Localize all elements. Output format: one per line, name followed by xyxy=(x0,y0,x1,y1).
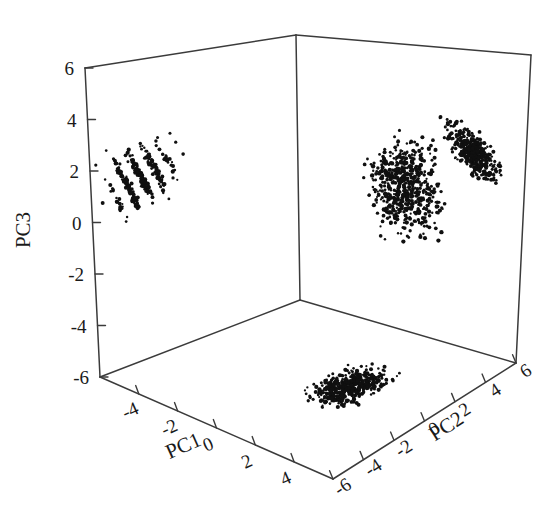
data-point xyxy=(149,163,151,165)
data-point xyxy=(354,372,358,376)
data-point xyxy=(362,176,365,179)
data-point xyxy=(414,151,417,154)
data-point xyxy=(385,178,389,182)
data-point xyxy=(132,197,135,200)
box-edge-top-left xyxy=(85,35,296,68)
data-point xyxy=(479,144,482,147)
data-point xyxy=(370,173,374,177)
data-point xyxy=(486,146,488,148)
data-point xyxy=(411,187,414,190)
data-point xyxy=(136,171,138,173)
data-point xyxy=(428,187,431,190)
data-point xyxy=(398,178,401,181)
data-point xyxy=(499,172,501,174)
data-point xyxy=(404,218,407,221)
data-point xyxy=(94,163,97,166)
data-point xyxy=(405,220,409,224)
data-point xyxy=(414,180,417,183)
data-point xyxy=(130,159,133,162)
data-point xyxy=(431,212,433,214)
data-point xyxy=(120,207,123,210)
data-point xyxy=(126,151,130,155)
data-point xyxy=(406,189,409,192)
data-point xyxy=(155,144,158,147)
data-point xyxy=(420,224,422,226)
data-point xyxy=(406,206,410,210)
data-point xyxy=(119,170,123,174)
data-point xyxy=(314,390,318,394)
data-point xyxy=(489,145,492,148)
data-point xyxy=(144,150,147,153)
box-edge-floor-right-back xyxy=(300,300,516,363)
data-point xyxy=(396,375,398,377)
data-point xyxy=(495,167,498,170)
data-point xyxy=(424,212,428,216)
data-point xyxy=(439,230,443,234)
pc1-tick-label-0: -4 xyxy=(119,397,142,423)
data-point xyxy=(412,157,415,160)
data-point xyxy=(454,156,457,159)
data-point xyxy=(400,208,402,210)
data-point xyxy=(468,134,471,137)
data-point xyxy=(433,156,437,160)
data-point xyxy=(494,163,496,165)
data-point xyxy=(417,149,421,153)
data-point xyxy=(495,179,498,182)
data-point xyxy=(364,383,367,386)
data-point xyxy=(118,162,121,165)
data-point xyxy=(404,153,407,156)
data-point xyxy=(384,238,387,241)
data-point xyxy=(374,198,378,202)
data-point xyxy=(392,153,394,155)
data-point xyxy=(390,161,394,165)
data-point xyxy=(165,157,169,161)
data-point xyxy=(425,193,427,195)
data-point xyxy=(370,362,374,366)
data-point xyxy=(471,151,474,154)
data-point xyxy=(376,202,378,204)
data-point xyxy=(171,176,174,179)
data-point xyxy=(488,153,491,156)
data-point xyxy=(108,183,112,187)
data-point xyxy=(403,159,406,162)
data-point xyxy=(414,167,417,170)
data-point xyxy=(391,181,394,184)
data-point xyxy=(436,184,440,188)
data-point xyxy=(413,140,416,143)
data-point xyxy=(150,158,153,161)
data-point xyxy=(131,154,134,157)
data-point xyxy=(404,181,407,184)
data-point xyxy=(312,383,315,386)
data-point xyxy=(369,367,373,371)
data-point xyxy=(417,197,421,201)
data-point xyxy=(344,385,347,388)
data-point xyxy=(446,129,449,132)
data-point xyxy=(480,153,483,156)
data-point xyxy=(139,145,141,147)
data-point xyxy=(493,176,496,179)
data-point xyxy=(449,134,451,136)
data-point xyxy=(472,135,475,138)
data-point xyxy=(389,177,393,181)
data-point xyxy=(462,130,466,134)
data-point xyxy=(469,164,473,168)
data-point xyxy=(452,137,455,140)
data-point xyxy=(460,119,463,122)
pc2-tick-label-0: -6 xyxy=(330,473,355,499)
data-point xyxy=(412,195,414,197)
pc3-tick-label-1: 4 xyxy=(67,110,77,131)
data-point xyxy=(378,153,381,156)
data-point xyxy=(393,135,396,138)
data-point xyxy=(336,396,339,399)
data-point xyxy=(498,169,502,173)
data-point xyxy=(417,165,419,167)
data-point xyxy=(443,136,446,139)
pc2-tick-3 xyxy=(421,413,424,421)
data-point xyxy=(366,158,369,161)
data-point xyxy=(468,158,470,160)
data-point xyxy=(144,190,146,192)
data-point xyxy=(408,229,411,232)
data-point xyxy=(393,193,395,195)
data-point xyxy=(375,380,379,384)
data-point xyxy=(379,184,382,187)
